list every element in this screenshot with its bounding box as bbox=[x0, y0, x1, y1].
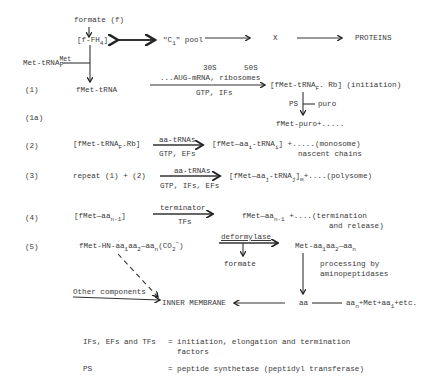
ribosome-subunits-label: 30S 50S bbox=[203, 64, 258, 73]
c1-pool-label: "C1" pool bbox=[163, 36, 203, 45]
deformylase-label: deformylase bbox=[221, 233, 271, 242]
ps-label: PS bbox=[289, 100, 298, 109]
fmet-puro-label: fMet-puro+..... bbox=[276, 120, 344, 129]
step-5-reactant: fMet-HN-aa1aa2—aan(CO2−) bbox=[79, 242, 184, 251]
fmet-trna-label: fMet-tRNA bbox=[76, 86, 117, 95]
aa-label: aa bbox=[299, 299, 308, 308]
step-1-label: (1) bbox=[25, 86, 39, 95]
step-4-label: (4) bbox=[25, 214, 39, 223]
step-4-product: fMet—aan-1 +....(termination bbox=[242, 212, 367, 221]
step-5-product: Met-aa1aa2—aan bbox=[295, 242, 356, 251]
mrna-ribosomes-label: ...AUG-mRNA, ribosomes bbox=[160, 74, 260, 83]
met-trna-label: Met-tRNAMetF bbox=[23, 57, 71, 69]
step-1a-label: (1a) bbox=[25, 114, 43, 123]
initiation-complex-label: [fMet-tRNAF. Rb] (initiation) bbox=[270, 81, 401, 90]
step-3-above: aa-tRNAs bbox=[174, 167, 210, 176]
proteins-label: PROTEINS bbox=[355, 34, 391, 43]
nascent-chains-label: nascent chains bbox=[298, 150, 362, 159]
and-release-label: and release) bbox=[329, 222, 384, 231]
f-fh4-label: [f-FH4] bbox=[77, 36, 108, 45]
step-3-below: GTP, IFs, EFs bbox=[160, 182, 219, 191]
formate-product-label: formate bbox=[224, 260, 256, 269]
x-label: X bbox=[273, 34, 278, 43]
puro-label: puro bbox=[318, 100, 336, 109]
legend-def-ps: = peptide synthetase (peptidyl transfera… bbox=[168, 365, 364, 374]
step-2-below: GTP, EFs bbox=[159, 150, 195, 159]
step-5-label: (5) bbox=[25, 243, 39, 252]
formate-label: formate (f) bbox=[74, 16, 124, 25]
step-2-reactant: [fMet-tRNAF.Rb] bbox=[73, 140, 140, 149]
tfs-label: TFs bbox=[178, 218, 192, 227]
step-3-product: [fMet—aaj-tRNAj]m+....(polysome) bbox=[229, 172, 372, 181]
inner-membrane-label: INNER MEMBRANE bbox=[162, 299, 226, 308]
terminator-label: terminator bbox=[160, 204, 206, 213]
step-3-label: (3) bbox=[25, 172, 39, 181]
legend-def-factors-2: factors bbox=[177, 348, 209, 357]
step-2-product: [fMet—aai-tRNAi] +.....(monosome) bbox=[212, 140, 361, 149]
other-components-label: Other components bbox=[73, 288, 146, 297]
step-2-above: aa-tRNAs bbox=[159, 136, 195, 145]
legend-term-factors: IFs, EFs and TFs bbox=[83, 338, 156, 347]
gtp-ifs-label: GTP, IFs bbox=[196, 89, 232, 98]
processing-label: processing by bbox=[320, 260, 379, 269]
step-2-label: (2) bbox=[25, 142, 39, 151]
step-4-reactant: [fMet—aan-1] bbox=[74, 212, 126, 221]
step-3-reactant: repeat (1) + (2) bbox=[73, 172, 146, 181]
legend-def-factors: = initiation, elongation and termination bbox=[168, 338, 350, 347]
legend-term-ps: PS bbox=[83, 365, 92, 374]
aminopeptidases-label: aminopeptidases bbox=[320, 270, 388, 279]
end-products-label: aan+Met+aa1+etc. bbox=[346, 299, 417, 308]
